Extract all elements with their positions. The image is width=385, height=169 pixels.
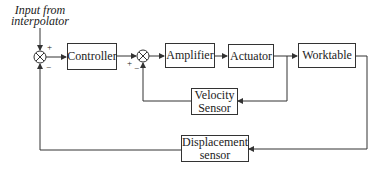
amplifier-block: Amplifier bbox=[165, 43, 215, 68]
controller-label: Controller bbox=[67, 50, 116, 63]
displacement-sensor-label-line1: Displacement bbox=[182, 136, 248, 149]
controller-block: Controller bbox=[67, 43, 117, 70]
sj1-plus-sign: + bbox=[47, 43, 52, 52]
velocity-sensor-block: Velocity Sensor bbox=[191, 88, 238, 115]
input-label-line2: interpolator bbox=[0, 16, 85, 27]
actuator-block: Actuator bbox=[228, 44, 274, 68]
displacement-sensor-label-line2: sensor bbox=[200, 149, 231, 162]
velocity-sensor-label-line1: Velocity bbox=[195, 89, 235, 102]
amplifier-label: Amplifier bbox=[166, 49, 213, 62]
worktable-label: Worktable bbox=[302, 49, 352, 62]
velocity-sensor-label-line2: Sensor bbox=[198, 102, 231, 115]
sj2-plus-sign: + bbox=[127, 59, 132, 68]
sj2-minus-sign: − bbox=[134, 64, 139, 73]
input-label: Input from interpolator bbox=[0, 5, 85, 27]
actuator-label: Actuator bbox=[230, 50, 272, 63]
sj1-minus-sign: − bbox=[46, 63, 51, 72]
worktable-block: Worktable bbox=[298, 43, 356, 68]
displacement-sensor-block: Displacement sensor bbox=[181, 135, 249, 162]
